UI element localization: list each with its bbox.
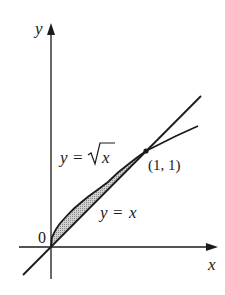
line-y-equals-x: [23, 96, 201, 275]
svg-text:=: =: [73, 148, 83, 167]
line-label: y = x: [98, 203, 137, 222]
svg-text:x: x: [128, 203, 137, 222]
svg-text:x: x: [101, 148, 110, 167]
sqrt-curve-label: y = x: [58, 143, 115, 167]
curve-y-equals-sqrt-x: [51, 126, 198, 247]
svg-text:y: y: [58, 148, 68, 167]
intersection-label: (1, 1): [148, 157, 181, 174]
origin-label: 0: [38, 229, 46, 246]
x-axis-arrow-icon: [206, 243, 218, 251]
intersection-point: [143, 148, 148, 153]
diagram-canvas: y x 0 y = x y = x (1, 1): [0, 0, 225, 295]
svg-text:=: =: [113, 203, 123, 222]
y-axis-arrow-icon: [47, 23, 55, 35]
svg-text:y: y: [98, 203, 108, 222]
x-axis-label: x: [207, 255, 216, 274]
y-axis-label: y: [33, 19, 43, 38]
